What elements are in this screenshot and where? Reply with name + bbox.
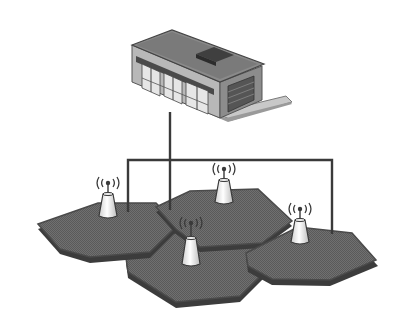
base-station-top [213,163,235,204]
antenna-icon [289,203,311,244]
building-icon [132,30,292,122]
cellular-network-diagram [0,0,401,329]
base-station-left [97,177,119,218]
office-building [132,30,292,122]
antenna-icon [213,163,235,204]
cell-grid [38,189,378,308]
antenna-icon [97,177,119,218]
base-station-right [289,203,311,244]
